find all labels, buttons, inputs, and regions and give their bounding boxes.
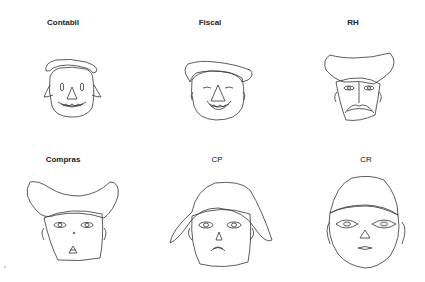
face-rh [325, 53, 394, 120]
face-fiscal [185, 61, 252, 120]
speck-mark [4, 266, 6, 268]
face-cp [170, 182, 272, 266]
face-cr [327, 176, 405, 268]
chernoff-faces-plot [0, 0, 425, 282]
face-compras [27, 182, 118, 261]
face-contabil [44, 59, 101, 117]
